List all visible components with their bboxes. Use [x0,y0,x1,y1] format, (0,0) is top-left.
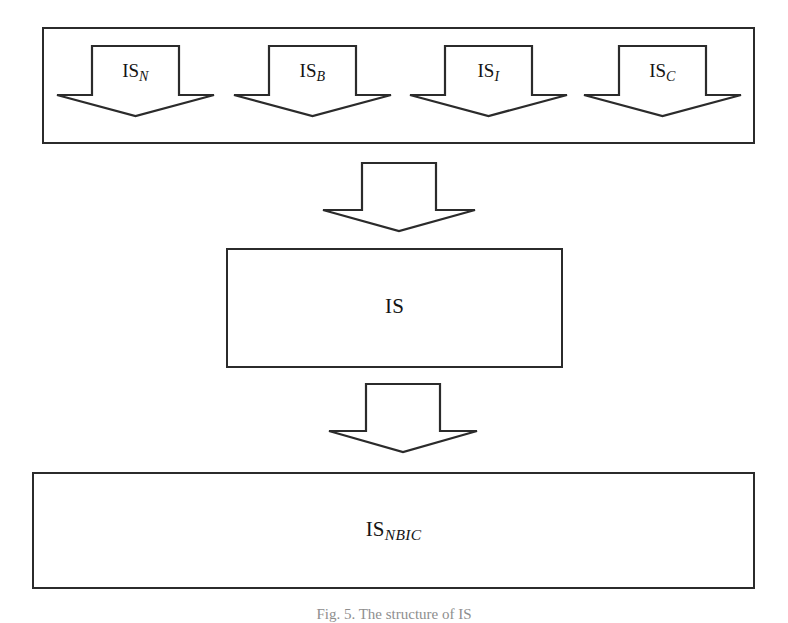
arrow-is-b-label: ISB [233,61,392,83]
arrow-is-n: ISN [56,45,215,117]
figure-caption: Fig. 5. The structure of IS [0,606,788,623]
arrow-down-icon [328,383,478,453]
arrow-is-c: ISC [583,45,742,117]
connector-is-to-isnbic [328,383,478,453]
figure-canvas: ISN ISB ISI ISC IS [0,0,788,623]
arrow-is-n-label: ISN [56,61,215,83]
arrow-is-i-label: ISI [409,61,568,83]
arrow-is-c-label: ISC [583,61,742,83]
connector-group-to-is [322,162,476,232]
arrow-is-b: ISB [233,45,392,117]
isnbic-box-label: ISNBIC [34,518,753,542]
isnbic-box: ISNBIC [32,472,755,589]
is-box-label: IS [228,296,561,320]
arrow-is-i: ISI [409,45,568,117]
is-box: IS [226,248,563,368]
arrow-down-icon [322,162,476,232]
